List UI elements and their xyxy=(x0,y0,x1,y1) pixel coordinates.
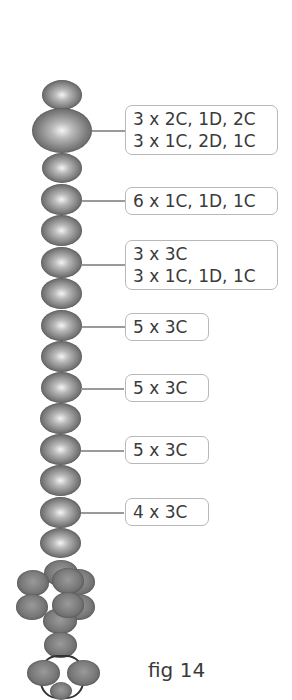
connector-line xyxy=(82,326,125,328)
bead xyxy=(40,528,81,558)
label-line: 3 x 1C, 2D, 1C xyxy=(133,130,269,152)
label-box: 5 x 3C xyxy=(125,374,209,402)
bead xyxy=(41,184,82,215)
bead xyxy=(40,403,81,434)
cluster-bead xyxy=(17,570,49,596)
label-line: 5 x 3C xyxy=(133,316,200,338)
bead-top xyxy=(42,80,82,110)
label-box: 6 x 1C, 1D, 1C xyxy=(125,187,278,215)
bead xyxy=(40,434,81,465)
cluster-bead xyxy=(52,568,84,594)
label-box: 3 x 3C 3 x 1C, 1D, 1C xyxy=(125,240,278,290)
bead xyxy=(40,465,81,496)
bead-large xyxy=(32,108,92,153)
bead xyxy=(41,278,82,309)
cluster-bead xyxy=(52,592,84,618)
bead xyxy=(50,682,72,700)
label-line: 3 x 1C, 1D, 1C xyxy=(133,265,269,287)
label-line: 5 x 3C xyxy=(133,377,200,399)
connector-line xyxy=(81,388,124,390)
label-line: 3 x 3C xyxy=(133,243,269,265)
connector-line xyxy=(81,450,124,452)
figure-caption: fig 14 xyxy=(148,658,205,682)
bead xyxy=(67,660,100,686)
label-line: 5 x 3C xyxy=(133,439,200,461)
label-line: 6 x 1C, 1D, 1C xyxy=(133,190,269,212)
connector-line xyxy=(92,130,125,132)
connector-line xyxy=(81,512,124,514)
bead xyxy=(41,247,82,278)
bead xyxy=(40,497,81,528)
connector-line xyxy=(82,264,125,266)
label-box: 3 x 2C, 1D, 2C 3 x 1C, 2D, 1C xyxy=(125,105,278,155)
bead xyxy=(42,153,82,183)
label-box: 5 x 3C xyxy=(125,436,209,464)
bead xyxy=(41,372,82,403)
connector-line xyxy=(82,200,125,202)
bead xyxy=(41,341,82,372)
label-box: 4 x 3C xyxy=(125,498,209,526)
bead xyxy=(41,215,82,246)
label-box: 5 x 3C xyxy=(125,313,209,341)
bead xyxy=(41,310,82,341)
label-line: 3 x 2C, 1D, 2C xyxy=(133,108,269,130)
label-line: 4 x 3C xyxy=(133,501,200,523)
